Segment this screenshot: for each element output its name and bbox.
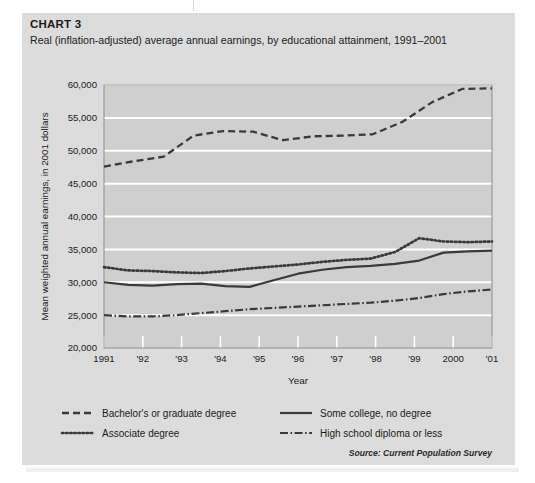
y-tick-label: 30,000	[68, 277, 97, 288]
source-note: Source: Current Population Survey	[349, 448, 493, 458]
legend-label: High school diploma or less	[320, 428, 442, 439]
x-tick-label: '97	[331, 353, 344, 364]
x-tick-label: '96	[292, 353, 305, 364]
panel-shadow	[26, 468, 519, 472]
y-axis-tick-labels: 20,00025,00030,00035,00040,00045,00050,0…	[68, 79, 97, 353]
y-tick-label: 55,000	[68, 112, 97, 123]
x-tick-label: 1991	[93, 353, 114, 364]
y-tick-label: 25,000	[68, 310, 97, 321]
x-axis-title: Year	[288, 375, 309, 386]
y-tick-label: 35,000	[68, 244, 97, 255]
legend-label: Bachelor's or graduate degree	[102, 408, 237, 419]
x-tick-label: '92	[137, 353, 150, 364]
y-axis-title: Mean weighted annual earnings, in 2001 d…	[39, 112, 50, 320]
x-tick-label: '99	[408, 353, 421, 364]
legend-label: Some college, no degree	[320, 408, 432, 419]
x-tick-label: '93	[175, 353, 188, 364]
page-canvas: CHART 3 Real (inflation-adjusted) averag…	[0, 0, 535, 483]
x-tick-label: '95	[253, 353, 266, 364]
chart-figure: 20,00025,00030,00035,00040,00045,00050,0…	[22, 13, 515, 465]
y-tick-label: 20,000	[68, 342, 97, 353]
x-tick-label: '98	[369, 353, 382, 364]
page-margin-rule	[193, 0, 194, 11]
x-tick-label: '01	[486, 353, 499, 364]
legend: Bachelor's or graduate degreeAssociate d…	[62, 408, 442, 439]
legend-label: Associate degree	[102, 428, 180, 439]
y-tick-label: 50,000	[68, 145, 97, 156]
x-tick-label: 2000	[443, 353, 464, 364]
y-tick-label: 40,000	[68, 211, 97, 222]
x-tick-label: '94	[214, 353, 227, 364]
y-tick-label: 60,000	[68, 79, 97, 90]
y-tick-label: 45,000	[68, 178, 97, 189]
